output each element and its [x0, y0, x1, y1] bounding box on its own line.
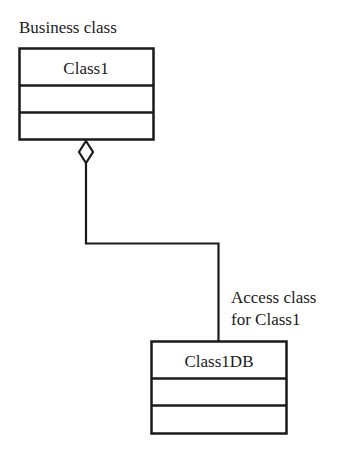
- aggregation-diamond-icon: [79, 141, 93, 163]
- access-class-label-line-1: Access class: [231, 288, 316, 307]
- class1-name: Class1: [63, 59, 108, 78]
- class1-box[interactable]: Class1: [19, 49, 154, 140]
- aggregation-connector-line[interactable]: [86, 163, 219, 341]
- class1db-box[interactable]: Class1DB: [151, 342, 287, 434]
- class1db-name: Class1DB: [185, 352, 254, 371]
- access-class-label-line-2: for Class1: [231, 310, 300, 329]
- uml-class-diagram: Business class Class1 Access class for C…: [0, 0, 352, 450]
- business-class-label: Business class: [19, 18, 117, 37]
